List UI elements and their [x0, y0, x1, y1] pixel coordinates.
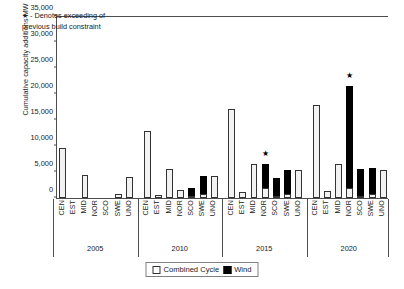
- star-marker-2015-NOR: ★: [262, 150, 269, 158]
- y-axis-tick-label: 0: [49, 185, 57, 194]
- x-axis-label-2020-CEN: CEN: [311, 200, 319, 215]
- bar-2015-SWE: [284, 16, 291, 198]
- x-axis-label-2015-UNO: UNO: [294, 200, 302, 216]
- x-axis-label-2005-UNO: UNO: [125, 200, 133, 216]
- x-axis-label-2010-UNO: UNO: [209, 200, 217, 216]
- y-axis-tick-label: 15,000: [30, 107, 57, 116]
- x-axis-label-2015-SWE: SWE: [283, 200, 291, 217]
- bar-segment-combined-cycle: [126, 177, 133, 198]
- legend-swatch-combined-cycle-icon: [152, 266, 160, 274]
- capacity-additions-bar-chart: Cumulative capacity additions MW 05,0001…: [0, 0, 404, 289]
- bar-2010-EST: [155, 16, 162, 198]
- bar-segment-combined-cycle: [211, 176, 218, 198]
- x-axis-label-2015-CEN: CEN: [227, 200, 235, 215]
- bar-2015-UNO: [295, 16, 302, 198]
- x-axis-label-2020-UNO: UNO: [378, 200, 386, 216]
- y-axis-tick-mark: [54, 119, 57, 120]
- bar-segment-combined-cycle: [380, 170, 387, 198]
- y-axis-tick-label: 25,000: [30, 55, 57, 64]
- bar-2020-UNO: [380, 16, 387, 198]
- y-axis-tick-label: 5,000: [35, 159, 58, 168]
- bar-segment-combined-cycle: [144, 131, 151, 198]
- x-axis-label-2020-SCO: SCO: [356, 200, 364, 216]
- bar-segment-combined-cycle: [228, 109, 235, 198]
- x-axis-label-2015-MID: MID: [249, 200, 257, 213]
- x-axis-label-2010-MID: MID: [165, 200, 173, 213]
- bar-segment-combined-cycle: [251, 164, 258, 198]
- y-axis-tick-label: 10,000: [30, 133, 57, 142]
- y-axis-tick-mark: [54, 93, 57, 94]
- bar-2020-EST: [324, 16, 331, 198]
- y-axis-tick-mark: [54, 145, 57, 146]
- bar-segment-wind: [273, 178, 280, 196]
- bar-2005-MID: [82, 16, 89, 198]
- bar-segment-wind: [369, 168, 376, 194]
- x-axis-label-2020-MID: MID: [334, 200, 342, 213]
- bar-segment-wind: [188, 188, 195, 196]
- bar-segment-wind: [346, 86, 353, 187]
- x-axis-label-2005-EST: EST: [69, 200, 77, 214]
- x-axis-label-2010-SWE: SWE: [198, 200, 206, 217]
- bar-2010-SCO: [188, 16, 195, 198]
- legend-label-combined-cycle: Combined Cycle: [163, 265, 219, 274]
- bar-segment-wind: [357, 169, 364, 196]
- group-separator: [138, 199, 139, 257]
- bar-2010-CEN: [144, 16, 151, 198]
- bar-2020-CEN: [313, 16, 320, 198]
- x-axis-label-2020-EST: EST: [322, 200, 330, 214]
- bar-2015-CEN: [228, 16, 235, 198]
- bar-segment-combined-cycle: [346, 188, 353, 198]
- bar-2005-CEN: [59, 16, 66, 198]
- x-axis-label-2010-SCO: SCO: [187, 200, 195, 216]
- legend-swatch-wind-icon: [223, 266, 231, 274]
- bar-2010-MID: [166, 16, 173, 198]
- bar-2010-UNO: [211, 16, 218, 198]
- bar-2010-NOR: [177, 16, 184, 198]
- x-axis-label-2015-SCO: SCO: [271, 200, 279, 216]
- y-axis-tick-mark: [54, 67, 57, 68]
- x-axis-label-2015-EST: EST: [238, 200, 246, 214]
- year-label-2010: 2010: [172, 244, 188, 253]
- bar-2005-EST: [70, 16, 77, 198]
- group-separator: [53, 199, 54, 257]
- x-axis-label-2015-NOR: NOR: [260, 200, 268, 216]
- y-axis-tick-mark: [54, 171, 57, 172]
- x-axis-label-2005-SCO: SCO: [102, 200, 110, 216]
- x-axis-label-2010-NOR: NOR: [176, 200, 184, 216]
- bar-2005-SCO: [104, 16, 111, 198]
- y-axis-tick-label: 20,000: [30, 81, 57, 90]
- x-axis-label-2005-MID: MID: [80, 200, 88, 213]
- bar-segment-combined-cycle: [177, 190, 184, 198]
- bar-segment-combined-cycle: [166, 169, 173, 198]
- bar-2015-NOR: [262, 16, 269, 198]
- bar-2020-MID: [335, 16, 342, 198]
- bar-2005-UNO: [126, 16, 133, 198]
- bar-segment-wind: [284, 170, 291, 194]
- x-axis-label-2010-EST: EST: [153, 200, 161, 214]
- x-axis-label-2005-CEN: CEN: [58, 200, 66, 215]
- bar-segment-combined-cycle: [335, 164, 342, 198]
- bar-2020-NOR: [346, 16, 353, 198]
- legend-item-combined-cycle: Combined Cycle: [152, 265, 219, 274]
- year-label-2020: 2020: [341, 244, 357, 253]
- year-label-2005: 2005: [87, 244, 103, 253]
- star-annotation-line1: ★ - Denotes exceeding of: [22, 10, 105, 21]
- bar-segment-wind: [262, 164, 269, 187]
- bar-segment-combined-cycle: [82, 175, 89, 198]
- bar-segment-combined-cycle: [313, 105, 320, 198]
- bar-segment-combined-cycle: [262, 188, 269, 198]
- bar-2015-EST: [239, 16, 246, 198]
- group-separator: [307, 199, 308, 257]
- bar-2015-MID: [251, 16, 258, 198]
- star-annotation: ★ - Denotes exceeding of previous build …: [22, 10, 105, 32]
- legend-item-wind: Wind: [223, 265, 251, 274]
- y-axis-tick-mark: [54, 41, 57, 42]
- bar-2015-SCO: [273, 16, 280, 198]
- chart-legend: Combined Cycle Wind: [145, 262, 258, 277]
- bar-segment-wind: [200, 176, 207, 194]
- bar-2010-SWE: [200, 16, 207, 198]
- group-separator: [222, 199, 223, 257]
- group-separator: [388, 199, 389, 257]
- legend-label-wind: Wind: [234, 265, 251, 274]
- year-label-2015: 2015: [256, 244, 272, 253]
